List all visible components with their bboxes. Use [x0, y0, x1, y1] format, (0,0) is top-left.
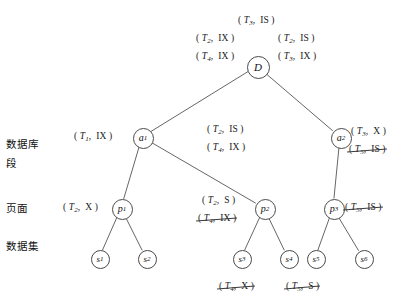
lock-p2-left-1: ( T2, S ): [202, 195, 235, 207]
lock-s45-below: ( T5, S ): [286, 281, 319, 293]
tree-node-subscript: 3: [335, 206, 339, 213]
tree-node-subscript: 1: [123, 206, 127, 213]
lock-a2-right-2: ( T5, IS ): [349, 144, 386, 156]
tree-node-s3[interactable]: s3: [233, 250, 252, 269]
lock-label-text: ( T2, IS ): [207, 124, 244, 134]
level-label-page: 页面: [6, 200, 28, 215]
tree-node-a1[interactable]: a1: [133, 128, 154, 149]
tree-edge-D-a2: [265, 73, 333, 131]
lock-a1-left: ( T1, IX ): [74, 131, 112, 143]
tree-node-label: D: [254, 62, 262, 73]
lock-label-text: ( T4, IX ): [207, 142, 245, 152]
lock-label-text: ( T2, IS ): [278, 33, 315, 43]
tree-node-p2[interactable]: p2: [255, 199, 276, 220]
tree-node-D[interactable]: D: [247, 56, 270, 79]
tree-node-subscript: 4: [289, 256, 293, 263]
tree-edge-p1-s2: [125, 216, 142, 250]
tree-node-p3[interactable]: p3: [324, 199, 345, 220]
lock-label-text: ( T3, X ): [351, 126, 386, 136]
lock-label-text: ( T5, IS ): [349, 144, 386, 156]
lock-label-text: ( T5, IS ): [345, 202, 382, 214]
lock-a2-right-1: ( T3, X ): [351, 126, 386, 138]
tree-node-subscript: 1: [144, 135, 148, 142]
lock-a1-right-1: ( T2, IS ): [207, 124, 244, 136]
lock-label-text: ( T1, IX ): [74, 131, 112, 141]
lock-mode: IX: [229, 142, 239, 152]
lock-d-right-1: ( T2, IS ): [278, 33, 315, 45]
lock-label-text: ( T4, X ): [219, 281, 254, 293]
lock-mode: IS: [300, 33, 309, 43]
level-label-dataset: 数据集: [6, 238, 39, 253]
lock-label-text: ( T3, IS ): [238, 15, 275, 25]
lock-mode: IS: [229, 124, 238, 134]
level-label-segment: 段: [6, 155, 17, 170]
tree-edge-p3-s6: [338, 216, 359, 251]
tree-node-s1[interactable]: s1: [91, 250, 110, 269]
lock-s3-below: ( T4, X ): [219, 281, 254, 293]
tree-edge-a2-p3: [334, 146, 339, 198]
lock-mode: IX: [300, 51, 310, 61]
lock-label-text: ( T5, S ): [286, 281, 319, 293]
lock-mode: IX: [96, 131, 106, 141]
tree-node-subscript: 6: [364, 256, 368, 263]
tree-edge-a1-p1: [124, 146, 140, 199]
lock-label-text: ( T2, IX ): [196, 33, 234, 43]
lock-d-right-2: ( T3, IX ): [278, 51, 316, 63]
tree-node-s4[interactable]: s4: [280, 250, 299, 269]
tree-edge-p1-s1: [102, 217, 117, 251]
lock-label-text: ( T4, IX ): [198, 213, 236, 225]
tree-edge-D-a1: [150, 72, 248, 132]
lock-label-text: ( T3, IX ): [278, 51, 316, 61]
tree-node-subscript: 3: [242, 256, 246, 263]
lock-mode: IX: [218, 51, 228, 61]
tree-node-subscript: 5: [316, 256, 320, 263]
lock-a1-right-2: ( T4, IX ): [207, 142, 245, 154]
tree-edge-p2-s4: [268, 217, 284, 251]
tree-edge-p2-s3: [245, 217, 260, 251]
lock-label-text: ( T2, S ): [202, 195, 235, 205]
tree-node-p1[interactable]: p1: [112, 199, 133, 220]
tree-node-s5[interactable]: s5: [307, 250, 326, 269]
lock-d-left-2: ( T4, IX ): [196, 51, 234, 63]
tree-node-subscript: 2: [147, 256, 151, 263]
tree-node-subscript: 1: [100, 256, 104, 263]
level-label-database: 数据库: [6, 136, 39, 151]
tree-node-subscript: 2: [342, 135, 346, 142]
tree-edge-p3-s5: [318, 217, 330, 250]
lock-label-text: ( T2, X ): [63, 202, 98, 212]
lock-label-text: ( T4, IX ): [196, 51, 234, 61]
tree-node-s2[interactable]: s2: [138, 250, 157, 269]
lock-d-top: ( T3, IS ): [238, 15, 275, 27]
lock-mode: IS: [367, 202, 376, 212]
lock-p2-left-2: ( T4, IX ): [198, 213, 236, 225]
lock-d-left-1: ( T2, IX ): [196, 33, 234, 45]
lock-mode: IS: [371, 144, 380, 154]
lock-p3-right: ( T5, IS ): [345, 202, 382, 214]
tree-node-subscript: 2: [266, 206, 270, 213]
lock-tree-diagram: Da1a2p1p2p3s1s2s3s4s5s6( T3, IS )( T2, I…: [0, 0, 404, 305]
lock-mode: IX: [218, 33, 228, 43]
tree-node-s6[interactable]: s6: [355, 250, 374, 269]
lock-mode: IS: [260, 15, 269, 25]
lock-p1-left: ( T2, X ): [63, 202, 98, 214]
lock-mode: IX: [220, 213, 230, 223]
tree-edges: [0, 0, 404, 305]
